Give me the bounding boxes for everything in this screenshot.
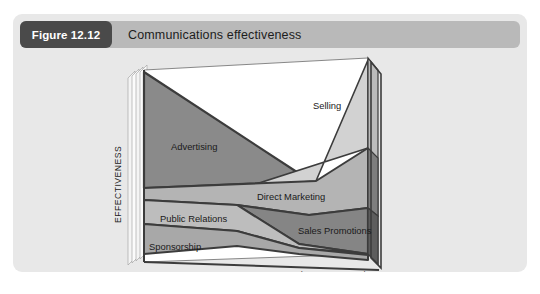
x-axis-tick-action: Action [350, 269, 376, 272]
band-label-sponsorship: Sponsorship [149, 241, 201, 252]
figure-title: Communications effectiveness [128, 21, 302, 48]
right-depth-face [368, 58, 381, 268]
x-axis-tick-desire: Desire [284, 269, 311, 272]
chart-area: EFFECTIVENESS Advertising Selling Direct… [13, 48, 527, 272]
band-label-public-relations: Public Relations [160, 213, 228, 224]
band-label-advertising: Advertising [171, 141, 217, 152]
figure-header: Figure 12.12 Communications effectivenes… [20, 21, 520, 48]
band-label-sales-promotions: Sales Promotions [298, 225, 372, 236]
band-label-direct-marketing: Direct Marketing [257, 191, 325, 202]
x-axis-tick-awareness: Awareness [144, 269, 191, 272]
figure-number-badge: Figure 12.12 [20, 21, 112, 48]
y-axis-title: EFFECTIVENESS [113, 146, 123, 223]
communications-effectiveness-chart: EFFECTIVENESS Advertising Selling Direct… [13, 48, 527, 272]
figure-panel: Figure 12.12 Communications effectivenes… [13, 14, 527, 272]
x-axis-tick-interest: Interest [216, 269, 248, 272]
band-label-selling: Selling [313, 100, 341, 111]
